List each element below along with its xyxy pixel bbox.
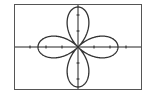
graph-screen [14,4,142,90]
graph-plot [15,5,141,89]
